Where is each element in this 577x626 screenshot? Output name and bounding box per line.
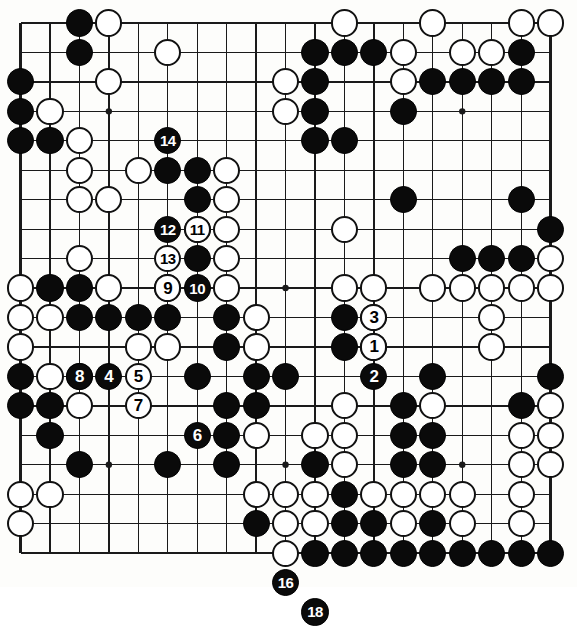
white-stone[interactable]: [7, 274, 34, 301]
black-stone[interactable]: [360, 540, 387, 567]
black-stone[interactable]: [66, 304, 93, 331]
white-stone[interactable]: [508, 510, 535, 537]
black-stone[interactable]: [243, 363, 270, 390]
black-stone[interactable]: [508, 392, 535, 419]
white-stone[interactable]: [154, 333, 181, 360]
white-stone[interactable]: [213, 216, 240, 243]
white-stone[interactable]: [95, 274, 122, 301]
black-stone[interactable]: [154, 157, 181, 184]
black-stone[interactable]: [184, 363, 211, 390]
black-stone[interactable]: [390, 98, 417, 125]
black-stone[interactable]: [301, 39, 328, 66]
white-stone[interactable]: [419, 274, 446, 301]
black-stone[interactable]: [331, 39, 358, 66]
black-stone[interactable]: [508, 186, 535, 213]
white-stone[interactable]: [36, 363, 63, 390]
move-stone-12[interactable]: 12: [154, 216, 181, 243]
move-stone-10[interactable]: 10: [184, 274, 211, 301]
move-stone-18[interactable]: 18: [301, 598, 328, 625]
move-stone-11[interactable]: 11: [184, 216, 211, 243]
white-stone[interactable]: [243, 481, 270, 508]
black-stone[interactable]: [184, 245, 211, 272]
move-stone-5[interactable]: 5: [125, 363, 152, 390]
black-stone[interactable]: [243, 392, 270, 419]
black-stone[interactable]: [449, 540, 476, 567]
white-stone[interactable]: [301, 510, 328, 537]
white-stone[interactable]: [66, 157, 93, 184]
black-stone[interactable]: [537, 363, 564, 390]
white-stone[interactable]: [272, 98, 299, 125]
black-stone[interactable]: [390, 540, 417, 567]
black-stone[interactable]: [66, 9, 93, 36]
white-stone[interactable]: [95, 9, 122, 36]
black-stone[interactable]: [301, 68, 328, 95]
black-stone[interactable]: [125, 304, 152, 331]
black-stone[interactable]: [301, 98, 328, 125]
white-stone[interactable]: [508, 9, 535, 36]
black-stone[interactable]: [478, 540, 505, 567]
white-stone[interactable]: [301, 481, 328, 508]
move-stone-16[interactable]: 16: [272, 569, 299, 596]
white-stone[interactable]: [419, 9, 446, 36]
black-stone[interactable]: [66, 39, 93, 66]
white-stone[interactable]: [213, 274, 240, 301]
black-stone[interactable]: [66, 274, 93, 301]
black-stone[interactable]: [390, 186, 417, 213]
white-stone[interactable]: [7, 304, 34, 331]
white-stone[interactable]: [243, 304, 270, 331]
black-stone[interactable]: [508, 39, 535, 66]
white-stone[interactable]: [508, 451, 535, 478]
black-stone[interactable]: [331, 333, 358, 360]
white-stone[interactable]: [390, 39, 417, 66]
black-stone[interactable]: [184, 157, 211, 184]
move-stone-6[interactable]: 6: [184, 422, 211, 449]
black-stone[interactable]: [301, 127, 328, 154]
black-stone[interactable]: [36, 392, 63, 419]
black-stone[interactable]: [184, 186, 211, 213]
white-stone[interactable]: [390, 510, 417, 537]
white-stone[interactable]: [7, 333, 34, 360]
black-stone[interactable]: [390, 422, 417, 449]
black-stone[interactable]: [331, 304, 358, 331]
black-stone[interactable]: [7, 98, 34, 125]
white-stone[interactable]: [36, 481, 63, 508]
black-stone[interactable]: [508, 540, 535, 567]
white-stone[interactable]: [331, 422, 358, 449]
black-stone[interactable]: [7, 363, 34, 390]
black-stone[interactable]: [331, 481, 358, 508]
black-stone[interactable]: [301, 451, 328, 478]
white-stone[interactable]: [331, 274, 358, 301]
white-stone[interactable]: [449, 510, 476, 537]
white-stone[interactable]: [508, 422, 535, 449]
white-stone[interactable]: [36, 304, 63, 331]
black-stone[interactable]: [508, 245, 535, 272]
black-stone[interactable]: [213, 333, 240, 360]
black-stone[interactable]: [537, 216, 564, 243]
white-stone[interactable]: [272, 540, 299, 567]
white-stone[interactable]: [272, 481, 299, 508]
black-stone[interactable]: [36, 422, 63, 449]
black-stone[interactable]: [243, 510, 270, 537]
white-stone[interactable]: [66, 245, 93, 272]
white-stone[interactable]: [449, 274, 476, 301]
black-stone[interactable]: [272, 363, 299, 390]
white-stone[interactable]: [243, 333, 270, 360]
black-stone[interactable]: [213, 422, 240, 449]
black-stone[interactable]: [36, 127, 63, 154]
white-stone[interactable]: [478, 333, 505, 360]
white-stone[interactable]: [419, 481, 446, 508]
white-stone[interactable]: [390, 481, 417, 508]
black-stone[interactable]: [419, 540, 446, 567]
white-stone[interactable]: [243, 422, 270, 449]
white-stone[interactable]: [301, 422, 328, 449]
white-stone[interactable]: [537, 422, 564, 449]
black-stone[interactable]: [449, 245, 476, 272]
black-stone[interactable]: [537, 540, 564, 567]
white-stone[interactable]: [331, 216, 358, 243]
white-stone[interactable]: [449, 39, 476, 66]
white-stone[interactable]: [478, 274, 505, 301]
white-stone[interactable]: [537, 9, 564, 36]
white-stone[interactable]: [508, 481, 535, 508]
white-stone[interactable]: [360, 274, 387, 301]
white-stone[interactable]: [537, 274, 564, 301]
